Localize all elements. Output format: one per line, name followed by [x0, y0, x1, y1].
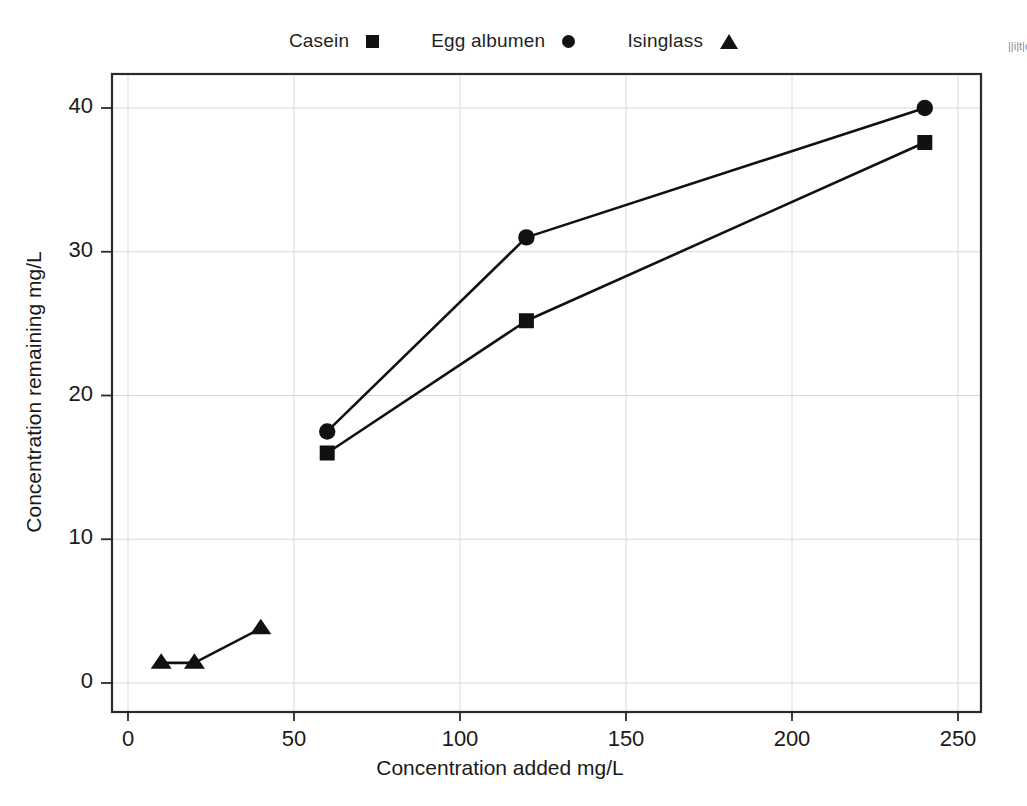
y-tick-label-0: 0: [43, 668, 93, 694]
data-point-egg-albumen-2: [917, 100, 933, 116]
x-tick-label-100: 100: [430, 726, 490, 752]
x-tick-label-0: 0: [98, 726, 158, 752]
x-axis-title: Concentration added mg/L: [0, 756, 1000, 780]
y-tick-label-40: 40: [43, 93, 93, 119]
x-tick-label-200: 200: [762, 726, 822, 752]
chart-canvas: [0, 0, 1027, 806]
x-tick-label-50: 50: [264, 726, 324, 752]
data-point-egg-albumen-1: [518, 229, 534, 245]
x-tick-label-250: 250: [928, 726, 988, 752]
x-tick-label-150: 150: [596, 726, 656, 752]
data-point-isinglass-2: [250, 619, 271, 635]
data-point-casein-1: [519, 313, 534, 328]
plot-frame: [112, 74, 981, 712]
data-series: [151, 100, 933, 669]
series-line-isinglass: [161, 628, 261, 663]
y-tick-label-30: 30: [43, 237, 93, 263]
figure: Casein Egg albumen Isinglass Concentrati…: [0, 0, 1027, 806]
gridlines: [112, 74, 981, 712]
data-point-casein-2: [917, 135, 932, 150]
data-point-egg-albumen-0: [319, 423, 335, 439]
plot-area: Concentration added mg/L Concentration r…: [0, 0, 1027, 806]
data-point-isinglass-1: [184, 653, 205, 669]
y-tick-label-20: 20: [43, 381, 93, 407]
axis-ticks: [101, 108, 958, 721]
data-point-isinglass-0: [151, 653, 172, 669]
y-tick-label-10: 10: [43, 524, 93, 550]
data-point-casein-0: [320, 446, 335, 461]
page-margin-text: ||i|t|c: [1008, 38, 1027, 55]
